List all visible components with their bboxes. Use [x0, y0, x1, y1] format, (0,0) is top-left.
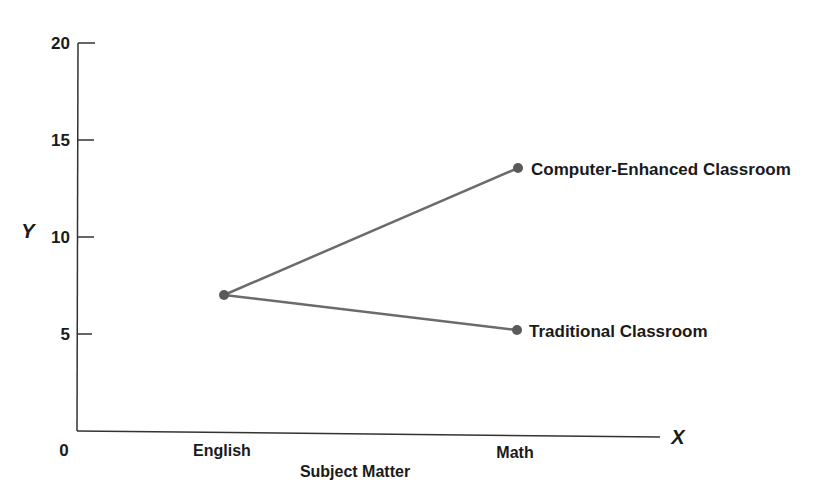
series-line-computer-enhanced [224, 168, 518, 295]
data-point-math-computer-enhanced [513, 163, 523, 173]
x-axis-line [77, 431, 660, 437]
origin-label: 0 [59, 441, 68, 460]
y-axis-letter: Y [21, 220, 36, 242]
y-tick-label-10: 10 [51, 228, 70, 247]
x-tick-label-english: English [193, 442, 251, 459]
series-label-traditional: Traditional Classroom [529, 322, 708, 341]
series-label-computer-enhanced: Computer-Enhanced Classroom [531, 160, 791, 179]
y-axis-line [77, 43, 78, 431]
x-tick-label-math: Math [496, 444, 533, 461]
x-axis-letter: X [670, 426, 686, 448]
y-tick-label-20: 20 [51, 34, 70, 53]
x-axis-title: Subject Matter [300, 463, 410, 480]
series-line-traditional [224, 295, 517, 330]
y-tick-label-5: 5 [61, 325, 70, 344]
line-chart: 20 15 10 5 0 Y X English Math Subject Ma… [0, 0, 820, 502]
data-point-english [219, 290, 229, 300]
data-point-math-traditional [512, 325, 522, 335]
y-tick-label-15: 15 [51, 131, 70, 150]
